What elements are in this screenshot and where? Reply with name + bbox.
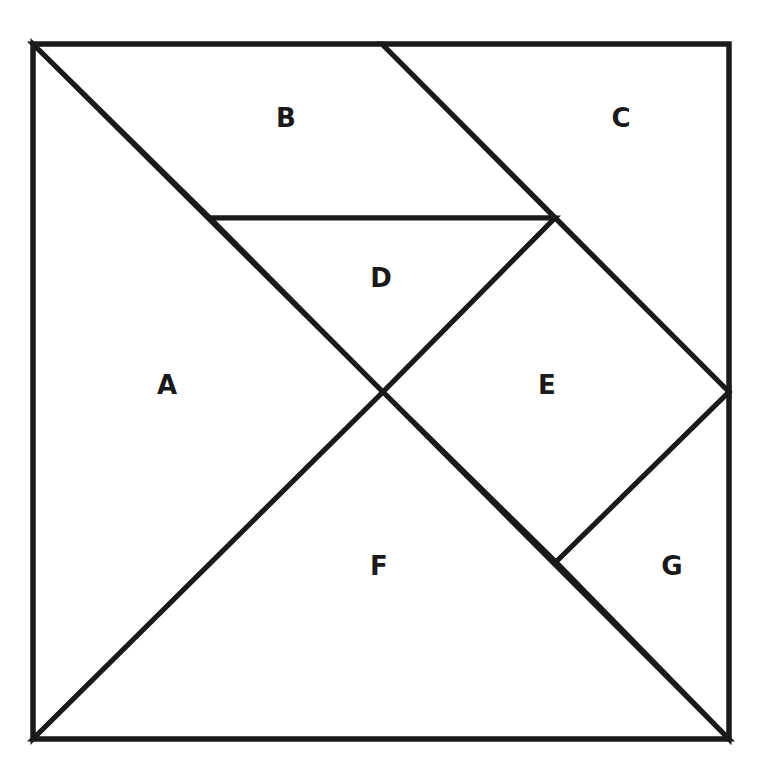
pieces-layer [33, 44, 729, 739]
piece-label-d: D [370, 263, 392, 293]
piece-label-b: B [276, 103, 296, 133]
piece-label-a: A [157, 370, 177, 400]
piece-label-g: G [661, 551, 682, 581]
piece-label-e: E [538, 370, 556, 400]
piece-label-f: F [370, 551, 388, 581]
tangram-diagram: ABCDEFG [0, 0, 772, 773]
piece-label-c: C [611, 103, 630, 133]
